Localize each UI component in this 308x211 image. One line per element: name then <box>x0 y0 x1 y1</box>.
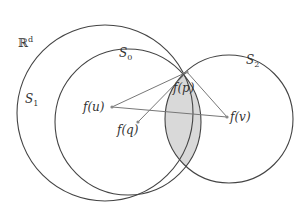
label-s1: S1 <box>25 92 38 108</box>
label-fp: f(p) <box>172 81 195 95</box>
point-fu <box>110 105 113 108</box>
label-fv: f(v) <box>229 110 251 124</box>
label-fu: f(u) <box>82 100 105 114</box>
diagram: ℝd S0 S1 S2 f(p) f(u) f(q) f(v) <box>0 0 308 211</box>
label-fq: f(q) <box>116 123 139 137</box>
label-s0: S0 <box>119 46 132 62</box>
point-fp <box>185 70 188 73</box>
point-fv <box>225 115 228 118</box>
label-space: ℝd <box>18 35 33 50</box>
label-s2: S2 <box>246 53 259 69</box>
